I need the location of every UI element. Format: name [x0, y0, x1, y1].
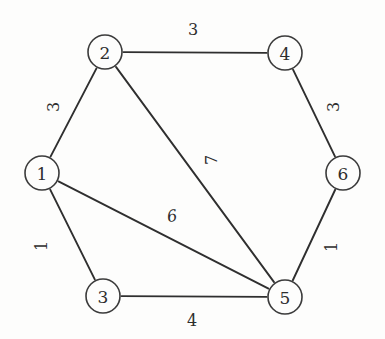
- node-label: 6: [338, 164, 349, 184]
- graph-canvas: 123456 33371614: [0, 0, 385, 339]
- node-label: 3: [98, 287, 109, 307]
- graph-edge: [121, 296, 266, 297]
- node-label: 4: [280, 44, 291, 64]
- graph-figure: 123456 33371614: [0, 0, 385, 339]
- graph-node: 5: [268, 280, 302, 314]
- graph-node: 1: [25, 156, 59, 190]
- graph-node: 3: [86, 279, 120, 313]
- edge-weight-label: 3: [188, 20, 198, 39]
- edge-weight-label: 6: [165, 206, 178, 226]
- node-label: 1: [37, 164, 48, 184]
- graph-node: 4: [268, 36, 302, 70]
- edge-weight-label: 4: [187, 311, 197, 330]
- graph-edge: [116, 67, 274, 282]
- nodes-layer: 123456: [25, 35, 360, 314]
- edges-layer: [50, 52, 335, 297]
- edge-weight-label: 1: [322, 242, 341, 252]
- graph-edge: [123, 52, 266, 53]
- edge-weight-label: 7: [202, 155, 221, 165]
- node-label: 5: [280, 288, 291, 308]
- edge-weight-label: 3: [324, 102, 343, 112]
- graph-node: 2: [88, 35, 122, 69]
- graph-edge: [50, 190, 95, 280]
- graph-node: 6: [326, 156, 360, 190]
- node-label: 2: [100, 43, 111, 63]
- edge-weight-label: 1: [32, 241, 51, 251]
- graph-edge: [293, 190, 335, 280]
- edge-weight-label: 3: [44, 102, 63, 112]
- graph-edge: [58, 181, 268, 288]
